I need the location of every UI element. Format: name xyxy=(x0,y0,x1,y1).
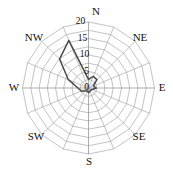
direction-label-s: S xyxy=(86,155,92,167)
direction-label-ne: NE xyxy=(133,31,148,43)
radial-tick-label-20: 20 xyxy=(76,16,86,26)
radial-tick-label-15: 15 xyxy=(78,33,88,43)
wind-rose-figure: N NE E SE S SW W NW 20 15 10 5 0 xyxy=(0,0,173,176)
direction-label-e: E xyxy=(159,81,166,93)
radial-tick-label-0: 0 xyxy=(84,82,89,92)
direction-label-nw: NW xyxy=(25,31,44,43)
radial-tick-label-10: 10 xyxy=(80,49,90,59)
direction-label-w: W xyxy=(9,81,20,93)
direction-label-sw: SW xyxy=(28,130,45,142)
radial-tick-label-5: 5 xyxy=(84,66,89,76)
direction-label-n: N xyxy=(92,5,100,17)
wind-rose-plot: N NE E SE S SW W NW 20 15 10 5 0 xyxy=(0,0,173,176)
direction-label-se: SE xyxy=(133,130,146,142)
